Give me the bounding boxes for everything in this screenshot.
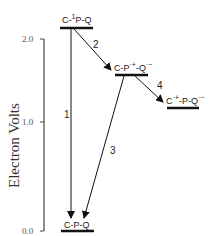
y-axis bbox=[40, 39, 44, 231]
transition-3-label: 3 bbox=[110, 146, 116, 156]
state-s1-base: C- bbox=[62, 15, 72, 25]
tick-2: 2.0 bbox=[22, 34, 33, 44]
state-label-s1: C-1P-Q bbox=[62, 15, 91, 25]
transition-2-label: 2 bbox=[93, 40, 99, 50]
state-s2-rest: -Q bbox=[136, 63, 146, 73]
state-label-s2: C-P·+-Q·− bbox=[114, 63, 152, 73]
state-label-s4: C-P-Q bbox=[64, 220, 90, 230]
state-s2-sup2: ·− bbox=[146, 61, 152, 68]
transition-3-arrow bbox=[84, 76, 124, 218]
y-axis-label: Electron Volts bbox=[6, 103, 23, 188]
state-s3-rest: -P-Q bbox=[179, 96, 198, 106]
tick-1: 1.0 bbox=[22, 117, 33, 127]
state-label-s3: C·+-P-Q·− bbox=[166, 96, 204, 106]
state-s2-base: C-P bbox=[114, 63, 130, 73]
state-s1-rest: P-Q bbox=[75, 15, 91, 25]
tick-0: 0.0 bbox=[22, 226, 33, 236]
transition-4-label: 4 bbox=[157, 81, 163, 91]
transition-1-label: 1 bbox=[64, 110, 70, 120]
state-s3-sup2: ·− bbox=[198, 94, 204, 101]
